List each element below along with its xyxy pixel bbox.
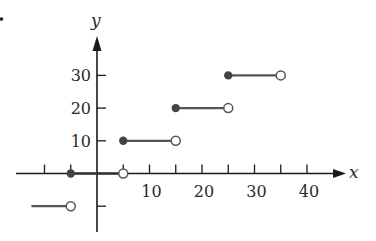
step-segment — [172, 104, 233, 113]
tick-labels: 10203040102030 — [71, 66, 320, 200]
y-axis-label: y — [90, 10, 101, 30]
closed-endpoint-dot — [67, 169, 75, 177]
open-endpoint-circle — [224, 104, 233, 113]
open-endpoint-circle — [171, 136, 180, 145]
open-endpoint-circle — [66, 202, 75, 211]
y-axis-arrow-icon — [93, 36, 102, 51]
closed-endpoint-dot — [172, 104, 180, 112]
axes — [16, 36, 346, 232]
x-tick-label: 40 — [299, 182, 319, 201]
open-endpoint-circle — [276, 71, 285, 80]
step-segment — [119, 136, 180, 145]
x-tick-label: 20 — [194, 182, 214, 201]
step-function-chart: 10203040102030 x y — [0, 0, 376, 241]
y-tick-label: 30 — [71, 66, 91, 85]
open-endpoint-circle — [119, 169, 128, 178]
x-tick-label: 10 — [141, 182, 161, 201]
closed-endpoint-dot — [224, 71, 232, 79]
closed-endpoint-dot — [119, 137, 127, 145]
step-segment — [224, 71, 285, 80]
x-tick-label: 30 — [246, 182, 266, 201]
y-tick-label: 20 — [71, 99, 91, 118]
x-axis-arrow-icon — [333, 169, 346, 178]
step-segment — [31, 202, 75, 211]
stray-mark — [0, 17, 3, 21]
x-axis-label: x — [349, 162, 359, 182]
y-tick-label: 10 — [71, 132, 91, 151]
